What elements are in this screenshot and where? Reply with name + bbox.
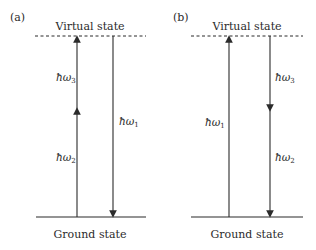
panel-a-omega1-label: ħω1 — [119, 115, 139, 129]
panel-a-virtual-state-label: Virtual state — [54, 20, 124, 33]
panel-a-label: (a) — [10, 11, 25, 24]
panel-b-omega3-label: ħω3 — [275, 71, 295, 85]
panel-a-omega2-label: ħω2 — [56, 151, 76, 165]
panel-b-ground-state-label: Ground state — [211, 228, 284, 241]
panel-b-virtual-state-label: Virtual state — [211, 20, 281, 33]
panel-b: (b) Virtual state Ground state ħω1 ħω3 ħ… — [173, 11, 303, 241]
panel-b-label: (b) — [173, 11, 189, 24]
panel-a-omega3-label: ħω3 — [56, 71, 76, 85]
panel-a: (a) Virtual state Ground state ħω3 ħω2 ħ… — [10, 11, 146, 241]
energy-level-diagram: (a) Virtual state Ground state ħω3 ħω2 ħ… — [0, 0, 316, 250]
panel-b-omega2-label: ħω2 — [275, 151, 295, 165]
panel-b-omega1-label: ħω1 — [205, 116, 225, 130]
panel-a-ground-state-label: Ground state — [54, 228, 127, 241]
